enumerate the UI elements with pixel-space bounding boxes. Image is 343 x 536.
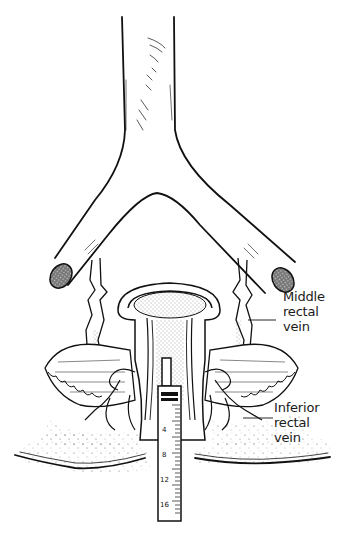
label-middle-rectal-vein: Middle rectal vein [283,289,325,334]
main-vein-trunk [45,17,298,296]
syringe-plunger [162,358,171,386]
label-line: vein [283,319,325,334]
label-line: rectal [274,415,319,430]
label-inferior-rectal-vein: Inferior rectal vein [274,400,319,445]
scale-mark-8: 8 [162,451,166,459]
label-line: rectal [283,304,325,319]
anatomical-illustration: 4 8 12 16 [0,0,343,536]
scale-mark-4: 4 [162,426,167,434]
label-line: Inferior [274,400,319,415]
scale-mark-12: 12 [160,476,169,484]
label-line: Middle [283,289,325,304]
scale-mark-16: 16 [160,501,169,509]
label-line: vein [274,430,319,445]
